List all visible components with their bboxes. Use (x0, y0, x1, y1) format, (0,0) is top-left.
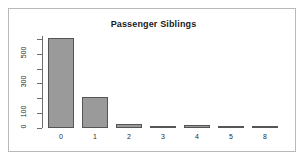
bar (184, 125, 211, 128)
x-tick-label: 2 (119, 133, 139, 140)
bar (252, 126, 279, 128)
y-tick-mark (37, 83, 42, 84)
y-tick-label: 500 (20, 41, 27, 63)
x-tick-label: 5 (221, 133, 241, 140)
x-tick-label: 8 (255, 133, 275, 140)
bar (116, 124, 143, 128)
bar (82, 97, 109, 128)
x-tick-label: 4 (187, 133, 207, 140)
chart-screenshot: Passenger Siblings 0100300500 0123458 (0, 0, 307, 162)
chart-title: Passenger Siblings (0, 19, 307, 29)
plot-panel (44, 36, 282, 128)
y-axis-line (42, 36, 43, 128)
barplot-figure: Passenger Siblings 0100300500 0123458 (0, 0, 307, 162)
bar (48, 38, 75, 128)
x-tick-label: 0 (51, 133, 71, 140)
x-tick-label: 3 (153, 133, 173, 140)
y-tick-mark (37, 39, 42, 40)
y-tick-mark (37, 69, 42, 70)
y-tick-mark (37, 54, 42, 55)
bar (218, 126, 245, 128)
y-tick-mark (37, 98, 42, 99)
y-tick-label: 100 (20, 101, 27, 123)
y-tick-mark (37, 113, 42, 114)
y-tick-mark (37, 128, 42, 129)
bar (150, 126, 177, 128)
x-tick-label: 1 (85, 133, 105, 140)
y-tick-label: 300 (20, 71, 27, 93)
